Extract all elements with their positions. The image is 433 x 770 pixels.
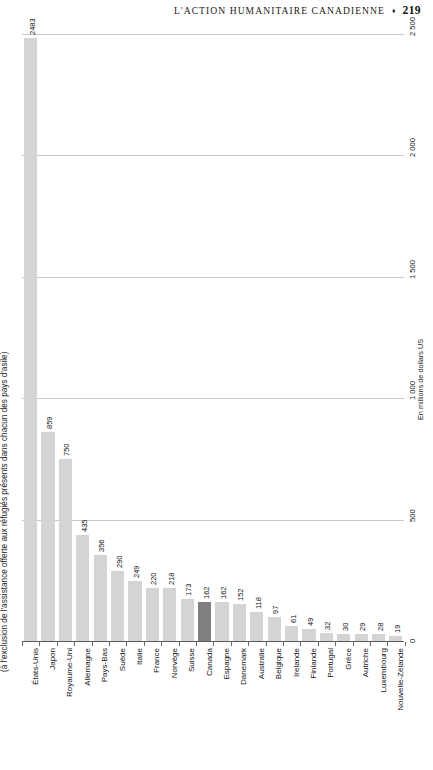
category-label-cell: Italie <box>126 648 143 766</box>
category-label-cell: Grèce <box>335 648 352 766</box>
category-label: Italie <box>135 648 144 665</box>
x-tick <box>318 642 319 646</box>
category-label-cell: Espagne <box>213 648 230 766</box>
x-tick <box>370 642 371 646</box>
category-label: Grèce <box>343 648 352 670</box>
category-label: États-Unis <box>30 648 39 685</box>
x-tick <box>353 642 354 646</box>
bar-value-label: 162 <box>202 586 211 599</box>
bar-item[interactable]: 61 <box>283 34 300 641</box>
bar-value-label: 49 <box>306 618 315 626</box>
category-label-cell: Allemagne <box>74 648 91 766</box>
category-label-cell: États-Unis <box>22 648 39 766</box>
category-label-cell: Suède <box>109 648 126 766</box>
bar[interactable]: 49 <box>302 629 315 641</box>
bar[interactable]: 118 <box>250 612 263 641</box>
bar[interactable]: 220 <box>146 588 159 641</box>
x-tick <box>196 642 197 646</box>
bar[interactable]: 61 <box>285 626 298 641</box>
category-label-cell: Japon <box>39 648 56 766</box>
category-label: Espagne <box>221 648 230 680</box>
x-tick <box>144 642 145 646</box>
x-tick <box>22 642 23 646</box>
bar-item[interactable]: 859 <box>39 34 56 641</box>
y-tick-label: 1 500 <box>408 260 417 279</box>
bar-value-label: 29 <box>358 623 367 631</box>
bar[interactable]: 2483 <box>24 38 37 641</box>
bar[interactable]: 162 <box>215 602 228 641</box>
category-label: Suisse <box>187 648 196 672</box>
category-label: Canada <box>204 648 213 676</box>
x-tick <box>266 642 267 646</box>
bar[interactable]: 30 <box>337 634 350 641</box>
category-label: Norvège <box>169 648 178 678</box>
bar-highlighted[interactable]: 162 <box>198 602 211 641</box>
bar[interactable]: 97 <box>268 617 281 641</box>
bar-value-label: 118 <box>254 597 263 609</box>
category-label-cell: Autriche <box>352 648 369 766</box>
bar-value-label: 2483 <box>28 18 37 35</box>
category-label: Irelande <box>291 648 300 677</box>
bar[interactable]: 290 <box>111 571 124 641</box>
bar-value-label: 28 <box>376 623 385 631</box>
bar-item[interactable]: 97 <box>265 34 282 641</box>
bar-value-label: 173 <box>184 583 193 596</box>
x-tick <box>213 642 214 646</box>
bar[interactable]: 356 <box>94 555 107 641</box>
x-tick <box>92 642 93 646</box>
bar-item[interactable]: 152 <box>231 34 248 641</box>
bar-item[interactable]: 249 <box>126 34 143 641</box>
x-tick <box>231 642 232 646</box>
bar-item[interactable]: 162 <box>196 34 213 641</box>
bar[interactable]: 859 <box>41 432 54 641</box>
bar[interactable]: 435 <box>76 535 89 641</box>
bar-item[interactable]: 435 <box>74 34 91 641</box>
bar-item[interactable]: 28 <box>370 34 387 641</box>
x-tick <box>74 642 75 646</box>
bar[interactable]: 750 <box>59 459 72 641</box>
category-label: Portugal <box>326 648 335 678</box>
category-label-cell: Danemark <box>231 648 248 766</box>
bar-value-label: 249 <box>132 565 141 578</box>
bar[interactable]: 28 <box>372 634 385 641</box>
category-label: Royaume-Uni <box>65 648 74 697</box>
bar-item[interactable]: 2483 <box>22 34 39 641</box>
y-tick-label: 0 <box>408 639 417 643</box>
bar-item[interactable]: 162 <box>213 34 230 641</box>
category-label: Autriche <box>361 648 370 677</box>
x-axis-category-labels: États-UnisJaponRoyaume-UniAllemagnePays-… <box>22 648 404 766</box>
bar[interactable]: 249 <box>128 581 141 641</box>
bar-item[interactable]: 220 <box>144 34 161 641</box>
bar-value-label: 220 <box>149 572 158 585</box>
category-label-cell: Canada <box>196 648 213 766</box>
bar[interactable]: 173 <box>181 599 194 641</box>
bar-value-label: 356 <box>97 539 106 552</box>
x-tick <box>335 642 336 646</box>
category-label-cell: France <box>144 648 161 766</box>
bar-item[interactable]: 19 <box>387 34 404 641</box>
bar-item[interactable]: 290 <box>109 34 126 641</box>
y-tick-label: 500 <box>408 509 417 522</box>
y-tick-label: 2 000 <box>408 138 417 157</box>
bar[interactable]: 218 <box>163 588 176 641</box>
bar[interactable]: 32 <box>320 633 333 641</box>
bar[interactable]: 29 <box>355 634 368 641</box>
category-label-cell: Irelande <box>283 648 300 766</box>
bar-item[interactable]: 356 <box>92 34 109 641</box>
bar-item[interactable]: 30 <box>335 34 352 641</box>
category-label-cell: Portugal <box>318 648 335 766</box>
bar-item[interactable]: 49 <box>300 34 317 641</box>
bar-value-label: 152 <box>236 589 245 602</box>
bar[interactable]: 19 <box>389 636 402 641</box>
category-label: Belgique <box>274 648 283 679</box>
category-label-cell: Finlande <box>300 648 317 766</box>
bar-item[interactable]: 173 <box>179 34 196 641</box>
bar-value-label: 32 <box>323 622 332 630</box>
bar-item[interactable]: 218 <box>161 34 178 641</box>
bar-item[interactable]: 118 <box>248 34 265 641</box>
bar[interactable]: 152 <box>233 604 246 641</box>
bar-item[interactable]: 29 <box>352 34 369 641</box>
bar-item[interactable]: 750 <box>57 34 74 641</box>
bar-item[interactable]: 32 <box>318 34 335 641</box>
x-tick <box>248 642 249 646</box>
